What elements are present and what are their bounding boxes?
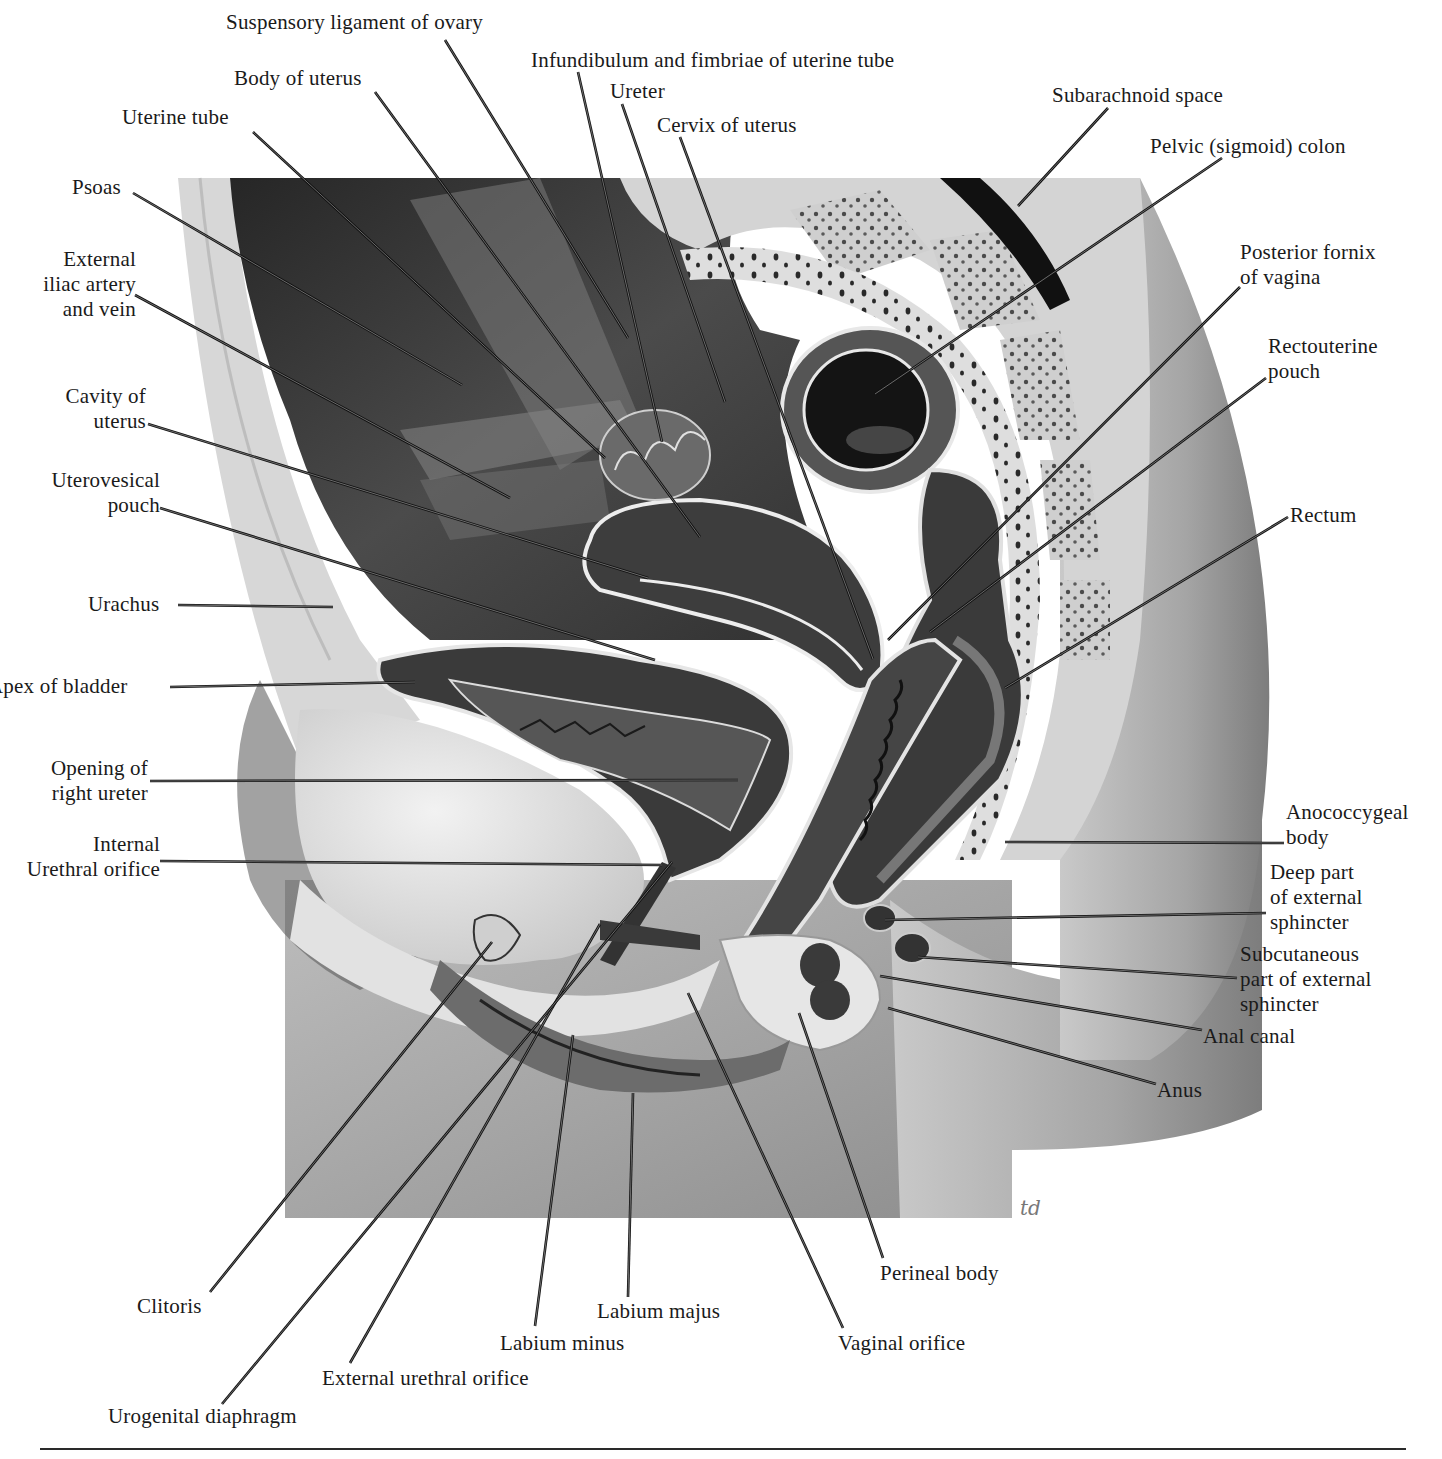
label-line: Cervix of uterus — [657, 113, 797, 138]
label-line: External urethral orifice — [322, 1366, 529, 1391]
label-line: Labium minus — [500, 1331, 624, 1356]
label-line: Apex of bladder — [0, 674, 127, 699]
label-line: Vaginal orifice — [838, 1331, 965, 1356]
label-line: pouch — [30, 493, 160, 518]
label-line: Urethral orifice — [0, 857, 160, 882]
label-line: Infundibulum and fimbriae of uterine tub… — [531, 48, 894, 73]
label-rectum: Rectum — [1290, 503, 1357, 528]
label-line: Subarachnoid space — [1052, 83, 1223, 108]
label-line: Clitoris — [137, 1294, 202, 1319]
label-clitoris: Clitoris — [137, 1294, 202, 1319]
label-line: Opening of — [22, 756, 148, 781]
label-opening-of-right-ureter: Opening ofright ureter — [22, 756, 148, 806]
label-apex-of-bladder: Apex of bladder — [0, 674, 127, 699]
label-line: Psoas — [72, 175, 121, 200]
label-vaginal-orifice: Vaginal orifice — [838, 1331, 965, 1356]
label-anal-canal: Anal canal — [1203, 1024, 1295, 1049]
label-line: Body of uterus — [234, 66, 362, 91]
label-perineal-body: Perineal body — [880, 1261, 999, 1286]
label-deep-part-of-external-sphincter: Deep partof externalsphincter — [1270, 860, 1363, 935]
label-line: Uterovesical — [30, 468, 160, 493]
label-line: Rectouterine — [1268, 334, 1378, 359]
label-line: Subcutaneous — [1240, 942, 1371, 967]
label-psoas: Psoas — [72, 175, 121, 200]
label-line: External — [18, 247, 136, 272]
label-urogenital-diaphragm: Urogenital diaphragm — [108, 1404, 297, 1429]
label-line: uterus — [46, 409, 146, 434]
label-line: Ureter — [610, 79, 665, 104]
label-pelvic-sigmoid-colon: Pelvic (sigmoid) colon — [1150, 134, 1346, 159]
label-external-iliac-artery-and-vein: Externaliliac arteryand vein — [18, 247, 136, 322]
label-labium-majus: Labium majus — [597, 1299, 720, 1324]
label-line: Posterior fornix — [1240, 240, 1376, 265]
label-line: Pelvic (sigmoid) colon — [1150, 134, 1346, 159]
label-infundibulum-and-fimbriae: Infundibulum and fimbriae of uterine tub… — [531, 48, 894, 73]
label-line: Urogenital diaphragm — [108, 1404, 297, 1429]
label-labium-minus: Labium minus — [500, 1331, 624, 1356]
bottom-rule-divider — [40, 1448, 1406, 1450]
label-line: Urachus — [88, 592, 159, 617]
label-line: Anococcygeal — [1286, 800, 1409, 825]
label-line: sphincter — [1240, 992, 1371, 1017]
label-line: pouch — [1268, 359, 1378, 384]
label-line: Deep part — [1270, 860, 1363, 885]
label-uterovesical-pouch: Uterovesicalpouch — [30, 468, 160, 518]
label-line: of external — [1270, 885, 1363, 910]
label-line: Anal canal — [1203, 1024, 1295, 1049]
label-urachus: Urachus — [88, 592, 159, 617]
label-line: Uterine tube — [122, 105, 229, 130]
label-line: Rectum — [1290, 503, 1357, 528]
label-line: Cavity of — [46, 384, 146, 409]
label-suspensory-ligament-of-ovary: Suspensory ligament of ovary — [226, 10, 483, 35]
label-line: sphincter — [1270, 910, 1363, 935]
label-line: Anus — [1157, 1078, 1202, 1103]
pelvis-sagittal-section-illustration — [0, 0, 1442, 1459]
label-line: iliac artery — [18, 272, 136, 297]
label-line: part of external — [1240, 967, 1371, 992]
label-line: right ureter — [22, 781, 148, 806]
sigmoid-colon — [782, 328, 958, 492]
label-anococcygeal-body: Anococcygealbody — [1286, 800, 1409, 850]
label-line: of vagina — [1240, 265, 1376, 290]
label-line: Labium majus — [597, 1299, 720, 1324]
label-line: Suspensory ligament of ovary — [226, 10, 483, 35]
label-posterior-fornix-of-vagina: Posterior fornixof vagina — [1240, 240, 1376, 290]
label-subcutaneous-part-of-external-sphincter: Subcutaneouspart of externalsphincter — [1240, 942, 1371, 1017]
label-ureter: Ureter — [610, 79, 665, 104]
label-uterine-tube: Uterine tube — [122, 105, 229, 130]
label-cervix-of-uterus: Cervix of uterus — [657, 113, 797, 138]
label-line: body — [1286, 825, 1409, 850]
label-cavity-of-uterus: Cavity ofuterus — [46, 384, 146, 434]
label-external-urethral-orifice: External urethral orifice — [322, 1366, 529, 1391]
label-line: Perineal body — [880, 1261, 999, 1286]
label-line: Internal — [0, 832, 160, 857]
artist-signature: td — [1020, 1196, 1041, 1220]
label-internal-urethral-orifice: InternalUrethral orifice — [0, 832, 160, 882]
label-rectouterine-pouch: Rectouterinepouch — [1268, 334, 1378, 384]
label-subarachnoid-space: Subarachnoid space — [1052, 83, 1223, 108]
label-anus: Anus — [1157, 1078, 1202, 1103]
label-line: and vein — [18, 297, 136, 322]
label-body-of-uterus: Body of uterus — [234, 66, 362, 91]
